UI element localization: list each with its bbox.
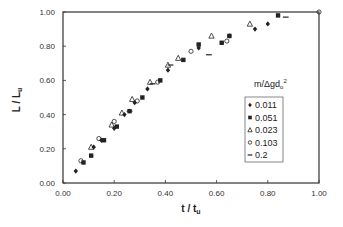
y-tick-label: 0.60 (39, 76, 55, 85)
x-tick-label: 0.20 (106, 189, 122, 198)
diamond-marker (74, 168, 78, 173)
diamond-marker (145, 86, 149, 91)
square-marker (89, 153, 93, 157)
series-0-011 (74, 21, 270, 173)
circle-marker (135, 99, 139, 103)
data-points (74, 10, 321, 174)
square-marker (248, 116, 252, 120)
scatter-chart: 0.000.200.400.600.801.00 0.000.200.400.6… (0, 0, 343, 227)
x-tick-label: 0.40 (158, 189, 174, 198)
diamond-marker (166, 68, 170, 73)
triangle-marker (209, 33, 214, 38)
y-axis-ticks: 0.000.200.400.600.801.00 (39, 8, 66, 188)
square-marker (181, 58, 185, 62)
square-marker (140, 95, 144, 99)
legend-label: 0.103 (255, 138, 278, 148)
circle-marker (225, 39, 229, 43)
y-tick-label: 0.00 (39, 179, 55, 188)
triangle-marker (129, 96, 134, 101)
x-tick-label: 0.80 (260, 189, 276, 198)
legend-title: m/Δgdo2 (254, 78, 287, 90)
triangle-marker (109, 122, 114, 127)
legend-label: 0.023 (255, 125, 278, 135)
triangle-marker (247, 21, 252, 26)
x-tick-label: 0.00 (55, 189, 71, 198)
y-tick-label: 1.00 (39, 8, 55, 17)
square-marker (196, 42, 200, 46)
square-marker (276, 13, 280, 17)
diamond-marker (266, 21, 270, 26)
x-axis-label: t / tu (181, 203, 200, 215)
x-tick-label: 0.60 (209, 189, 225, 198)
y-tick-label: 0.20 (39, 145, 55, 154)
triangle-marker (119, 110, 124, 115)
legend-label: 0.051 (255, 113, 278, 123)
y-tick-label: 0.40 (39, 111, 55, 120)
x-label-main: t / t (181, 203, 197, 214)
series-0-103 (79, 10, 321, 163)
square-marker (220, 41, 224, 45)
circle-marker (97, 136, 101, 140)
square-marker (227, 34, 231, 38)
x-tick-label: 1.00 (311, 189, 327, 198)
y-tick-label: 0.80 (39, 42, 55, 51)
series-0-023 (89, 21, 253, 149)
y-axis-label: L / Lu (11, 88, 23, 113)
square-marker (115, 124, 119, 128)
legend: m/Δgdo2 0.0110.0510.0230.1030.2 (245, 78, 287, 162)
circle-marker (189, 49, 193, 53)
y-label-main: L / L (11, 92, 22, 112)
triangle-marker (176, 55, 181, 60)
y-label-sub: u (16, 88, 23, 92)
diamond-marker (253, 26, 257, 31)
x-label-sub: u (196, 208, 200, 215)
circle-marker (112, 119, 116, 123)
legend-label: 0.011 (255, 100, 277, 110)
square-marker (102, 138, 106, 142)
legend-label: 0.2 (255, 150, 268, 160)
